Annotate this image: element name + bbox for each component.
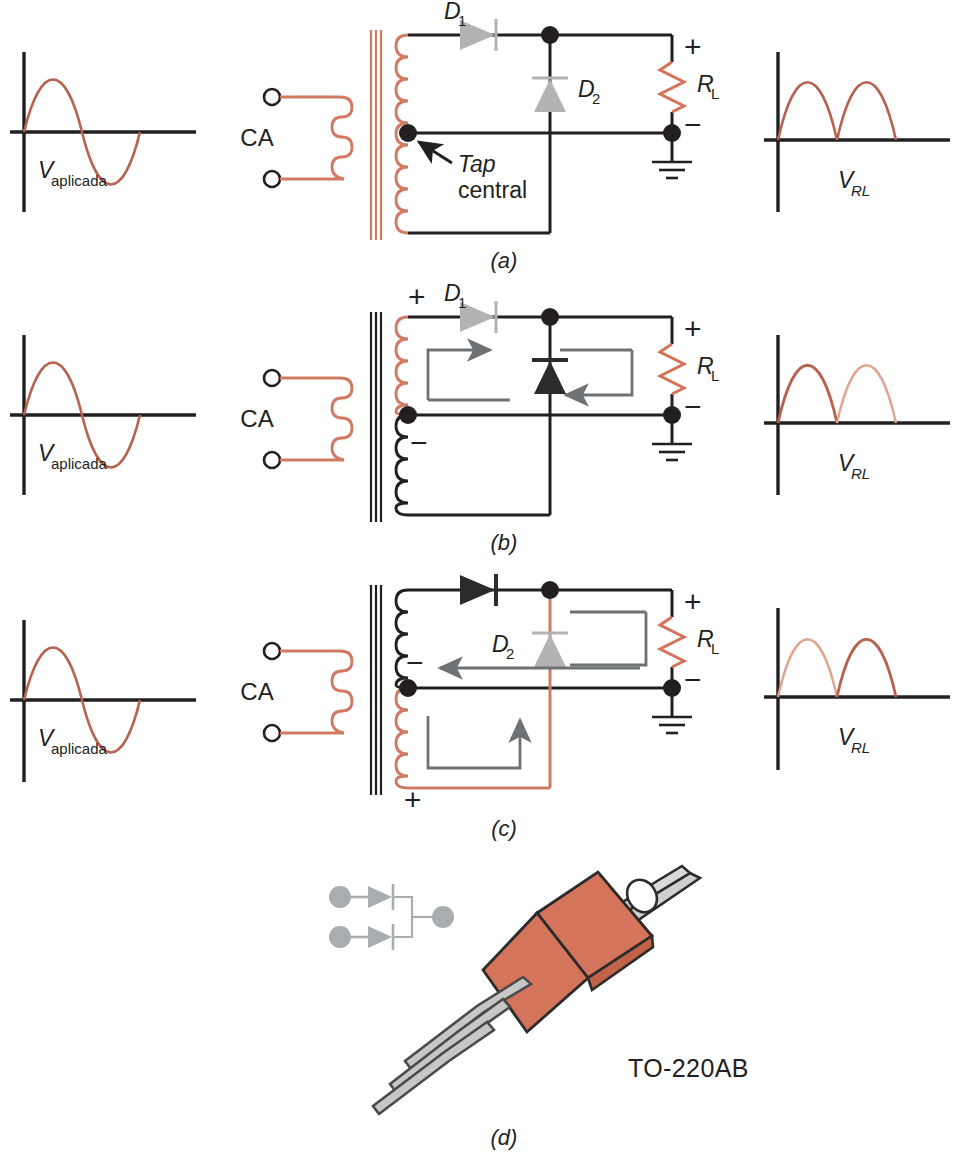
center-tap-node [399,124,417,142]
rl-sublabel: L [711,640,719,657]
d1-sublabel: 1 [458,294,466,311]
ac-source-label: CA [240,678,273,705]
dual-diode-schematic-icon [329,884,454,950]
figure-full-wave-rectifier: V aplicada CA [0,0,958,1172]
terminal-cathode-icon [432,906,454,928]
transformer-core-b [371,312,381,522]
panel-caption-a: (a) [491,248,518,273]
hump-2-inactive [837,365,896,423]
v-aplicada-sublabel: aplicada [51,172,108,189]
load-resistor-c: R L + − [660,585,719,696]
wires-c [408,590,672,717]
primary-coil [280,651,352,733]
hump-2 [837,82,896,140]
current-flow-loop-b [428,350,632,400]
figure-canvas: V aplicada CA [0,0,958,1172]
terminal-top-icon[interactable] [264,643,280,659]
diode-d2-a: D 2 [532,76,600,112]
transformer-core-a [371,30,381,240]
diode-d2-b [532,360,568,394]
d2-sublabel: 2 [506,645,514,662]
ac-source-label: CA [240,405,273,432]
node-dot [663,679,681,697]
center-tap-node [399,679,417,697]
secondary-coil-lower-b [396,415,408,515]
center-tap-node [399,406,417,424]
diode-icon-top [368,886,392,908]
primary-coil [280,378,352,460]
terminal-anode-1-icon [329,886,351,908]
vrl-sublabel: RL [851,739,870,756]
rl-sublabel: L [711,367,719,384]
to220ab-package-drawing: TO-220AB [373,866,749,1114]
waveform-vrl-c: V RL [764,608,950,770]
load-resistor-b: R L + − [660,312,719,423]
center-tap-callout-a: Tap central [419,142,527,203]
node-dot [663,406,681,424]
ground-symbol-a [652,162,692,178]
polarity-plus-c: + [684,585,702,618]
ground-symbol-c [652,717,692,733]
panel-a: V aplicada CA [10,0,950,273]
panel-caption-c: (c) [491,816,517,841]
terminal-bottom-icon[interactable] [264,171,280,187]
wires-a [408,35,672,233]
waveform-v-aplicada-a: V aplicada [10,52,196,212]
polarity-minus-c: − [684,663,702,696]
node-dot [541,308,559,326]
terminal-bottom-icon[interactable] [264,452,280,468]
waveform-vrl-a: V RL [764,52,950,212]
hump-1-inactive [778,639,837,697]
secondary-coil-lower-c [396,688,408,788]
v-aplicada-sublabel: aplicada [51,455,108,472]
waveform-vrl-b: V RL [764,335,950,495]
rl-sublabel: L [711,85,719,102]
panel-c: V aplicada CA [10,574,950,841]
panel-caption-b: (b) [491,530,518,555]
polarity-plus-a: + [684,30,702,63]
hump-2-active [837,639,896,697]
diode-icon-bottom [368,926,392,948]
hump-1 [778,82,837,140]
terminal-top-icon[interactable] [264,89,280,105]
transformer-core-c [371,585,381,795]
hump-1-active [778,365,837,423]
ac-source-c: CA [240,643,352,741]
d2-sublabel: 2 [592,90,600,107]
panel-d: TO-220AB (d) [329,866,749,1150]
ac-source-b: CA [240,370,352,468]
waveform-v-aplicada-c: V aplicada [10,620,196,782]
panel-caption-d: (d) [491,1125,518,1150]
v-aplicada-sublabel: aplicada [51,740,108,757]
panel-b: V aplicada CA [10,280,950,555]
vrl-sublabel: RL [851,182,870,199]
polarity-minus-b: − [684,390,702,423]
package-leads [373,977,531,1114]
current-flow-loop-c [428,612,646,768]
polarity-plus-secondary-c: + [404,783,422,816]
polarity-plus-b: + [684,312,702,345]
lead-3 [373,1022,494,1114]
polarity-minus-tap-c: − [406,646,424,679]
terminal-anode-2-icon [329,926,351,948]
ac-source-a: CA [240,89,352,187]
polarity-minus-tap-b: − [410,426,428,459]
diode-d1-c [460,574,496,606]
polarity-plus-secondary-b: + [408,280,426,313]
terminal-bottom-icon[interactable] [264,725,280,741]
waveform-v-aplicada-b: V aplicada [10,335,196,495]
node-dot [663,124,681,142]
node-dot [541,581,559,599]
center-tap-line2: central [458,177,527,203]
package-name-label: TO-220AB [628,1054,749,1082]
ground-symbol-b [652,444,692,460]
diode-d2-c: D 2 [492,631,568,667]
primary-coil [280,97,352,179]
node-dot [541,26,559,44]
polarity-minus-a: − [684,108,702,141]
load-resistor-a: R L + − [660,30,719,141]
diode-d1-b: D 1 + [408,280,496,333]
ac-source-label: CA [240,124,273,151]
diode-d1-a: D 1 [444,0,496,51]
terminal-top-icon[interactable] [264,370,280,386]
